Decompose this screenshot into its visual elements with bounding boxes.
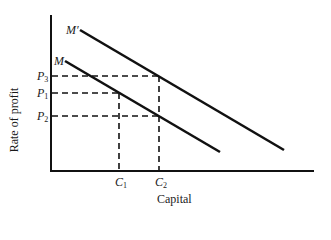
tick-c1: C1 <box>115 176 127 190</box>
tick-p3: P3 <box>37 70 48 84</box>
tick-p1: P1 <box>37 87 48 101</box>
curve-m <box>65 61 220 152</box>
curve-m-label: M <box>54 55 64 67</box>
tick-p2: P2 <box>37 110 48 124</box>
curve-m-prime <box>80 30 284 150</box>
curve-m-prime-label: M′ <box>66 24 79 36</box>
x-axis-label: Capital <box>157 193 192 205</box>
tick-c2: C2 <box>155 176 167 190</box>
y-axis-label: Rate of profit <box>8 88 20 153</box>
